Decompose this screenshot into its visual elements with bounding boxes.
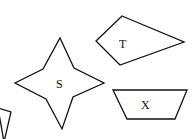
shape-t-kite [96,16,184,65]
partial-shape [0,108,11,139]
shape-t-label: T [119,37,127,51]
shapes-diagram: S T X [0,0,195,139]
shape-x-label: X [141,98,150,112]
shape-s-label: S [56,77,63,91]
shape-x-trapezoid [113,90,187,119]
